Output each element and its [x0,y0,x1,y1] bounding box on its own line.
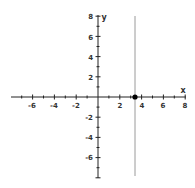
y-tick-label: 8 [88,13,93,21]
y-tick-label: -4 [85,134,93,142]
x-tick-labels: -6 -4 -2 2 4 6 8 [28,102,187,110]
x-axis-label: x [180,86,186,95]
x-tick-label: -4 [50,102,58,110]
y-tick-label: -2 [85,114,93,122]
x-tick-label: -2 [72,102,80,110]
x-tick-label: 4 [140,102,145,110]
y-tick-label: 6 [88,34,93,42]
y-tick-label: 4 [88,54,93,62]
y-tick-labels: 8 6 4 2 -2 -4 -6 [85,13,93,162]
x-tick-label: 2 [118,102,123,110]
x-tick-label: 6 [161,102,166,110]
x-intercept-point [132,94,137,99]
y-axis-label: y [101,13,107,22]
x-tick-label: -6 [28,102,36,110]
coordinate-plane: -6 -4 -2 2 4 6 8 8 6 4 2 -2 -4 -6 x y [0,0,195,188]
y-tick-label: -6 [85,154,93,162]
y-tick-label: 2 [88,74,93,82]
x-tick-label: 8 [183,102,188,110]
